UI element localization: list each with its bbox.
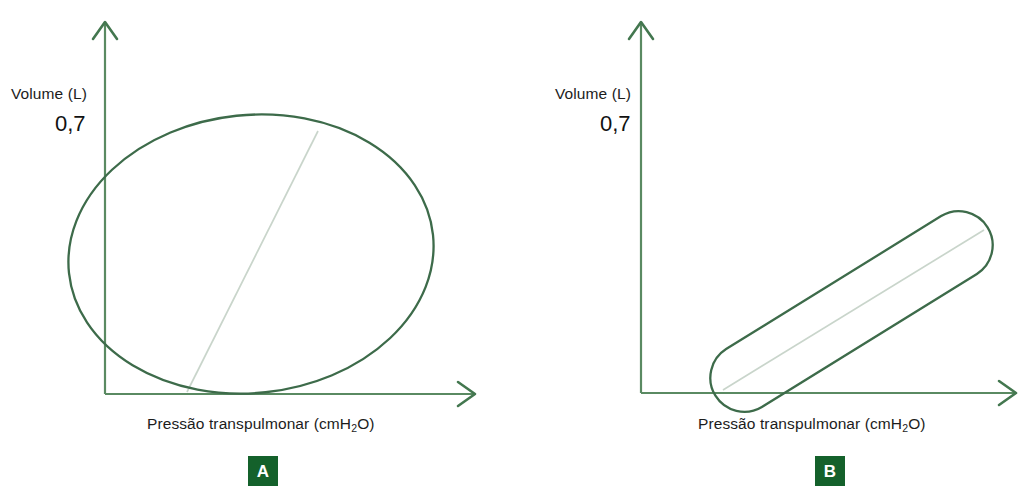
x-axis-label-b-tail: O)	[908, 415, 925, 432]
hysteresis-loop-a	[54, 97, 447, 412]
panel-badge-b: B	[815, 456, 845, 486]
panel-b: Volume (L) 0,7 Pressão transpulmonar (cm…	[514, 0, 1028, 502]
y-axis-value-a: 0,7	[55, 111, 86, 137]
x-axis-label-a-sub: 2	[351, 422, 357, 434]
y-axis-label-a: Volume (L)	[11, 85, 87, 103]
x-axis-label-b-main: Pressão transpulmonar (cmH	[698, 415, 902, 432]
x-axis-b	[641, 381, 1016, 405]
compliance-line-a	[187, 131, 318, 392]
y-axis-value-b: 0,7	[600, 111, 631, 137]
y-axis-b	[629, 22, 653, 393]
x-axis-label-a: Pressão transpulmonar (cmH2O)	[147, 415, 375, 433]
x-axis-a	[105, 382, 475, 406]
panel-badge-a: A	[248, 456, 278, 486]
figure-container: Volume (L) 0,7 Pressão transpulmonar (cm…	[0, 0, 1028, 502]
y-axis-a	[93, 22, 117, 394]
y-axis-label-b: Volume (L)	[555, 85, 631, 103]
x-axis-label-b-sub: 2	[902, 422, 908, 434]
x-axis-label-b: Pressão transpulmonar (cmH2O)	[698, 415, 926, 433]
panel-a: Volume (L) 0,7 Pressão transpulmonar (cm…	[0, 0, 514, 502]
x-axis-label-a-tail: O)	[357, 415, 374, 432]
x-axis-label-a-main: Pressão transpulmonar (cmH	[147, 415, 351, 432]
